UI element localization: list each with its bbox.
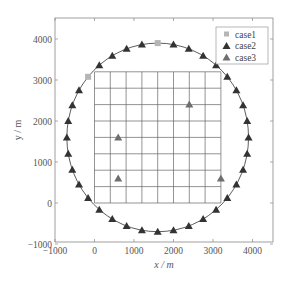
case2-triangle-marker	[68, 101, 76, 108]
y-axis-label: y / m	[12, 120, 23, 141]
case2-triangle-marker	[123, 222, 131, 229]
case2-triangle-marker	[239, 166, 247, 173]
case2-triangle-marker	[108, 52, 116, 59]
case2-triangle-marker	[75, 181, 83, 188]
legend-case1-label: case1	[235, 30, 256, 40]
y-tick-label: −1000	[28, 240, 53, 250]
y-tick-label: 4000	[33, 35, 52, 45]
x-axis-label: x / m	[153, 259, 173, 270]
case2-triangle-marker	[199, 215, 207, 222]
case2-triangle-marker	[154, 228, 162, 235]
case2-triangle-marker	[239, 101, 247, 108]
case3-triangle-marker	[114, 174, 122, 181]
case2-triangle-marker	[123, 45, 131, 52]
case2-triangle-marker	[64, 150, 72, 157]
case2-triangle-marker	[185, 222, 193, 229]
x-tick-label: 0	[92, 246, 97, 256]
case2-triangle-marker	[108, 215, 116, 222]
legend: case1 case2 case3	[216, 27, 268, 64]
case2-triangle-marker	[185, 45, 193, 52]
case2-triangle-marker	[75, 86, 83, 93]
case3-triangle-marker	[114, 133, 122, 140]
case2-triangle-marker	[245, 133, 253, 140]
case1-square-marker	[85, 74, 91, 80]
case2-triangle-marker	[68, 166, 76, 173]
case2-triangle-marker	[95, 61, 103, 68]
case2-triangle-marker	[243, 150, 251, 157]
case1-square-marker	[155, 40, 161, 46]
legend-case1-square-icon	[224, 32, 229, 37]
case2-triangle-marker	[199, 52, 207, 59]
chart: −100001000200030004000 −1000010002000300…	[0, 0, 285, 283]
x-tick-label: 2000	[164, 246, 183, 256]
legend-case2-label: case2	[235, 41, 256, 51]
grid	[95, 72, 221, 203]
case2-triangle-marker	[63, 133, 71, 140]
x-tick-labels: −100001000200030004000	[43, 246, 262, 256]
y-tick-labels: −100001000200030004000	[28, 35, 53, 250]
case3-triangle-marker	[185, 101, 193, 108]
x-tick-label: 4000	[243, 246, 262, 256]
case2-triangle-marker	[232, 181, 240, 188]
x-tick-label: 3000	[204, 246, 223, 256]
case2-triangle-marker	[64, 117, 72, 124]
case2-triangle-marker	[232, 86, 240, 93]
y-tick-label: 1000	[33, 158, 52, 168]
legend-case3-label: case3	[235, 53, 256, 63]
y-tick-label: 2000	[33, 117, 52, 127]
x-tick-label: 1000	[125, 246, 144, 256]
case2-triangle-marker	[243, 117, 251, 124]
y-tick-label: 3000	[33, 76, 52, 86]
y-tick-label: 0	[47, 199, 52, 209]
case3-triangle-marker	[217, 174, 225, 181]
